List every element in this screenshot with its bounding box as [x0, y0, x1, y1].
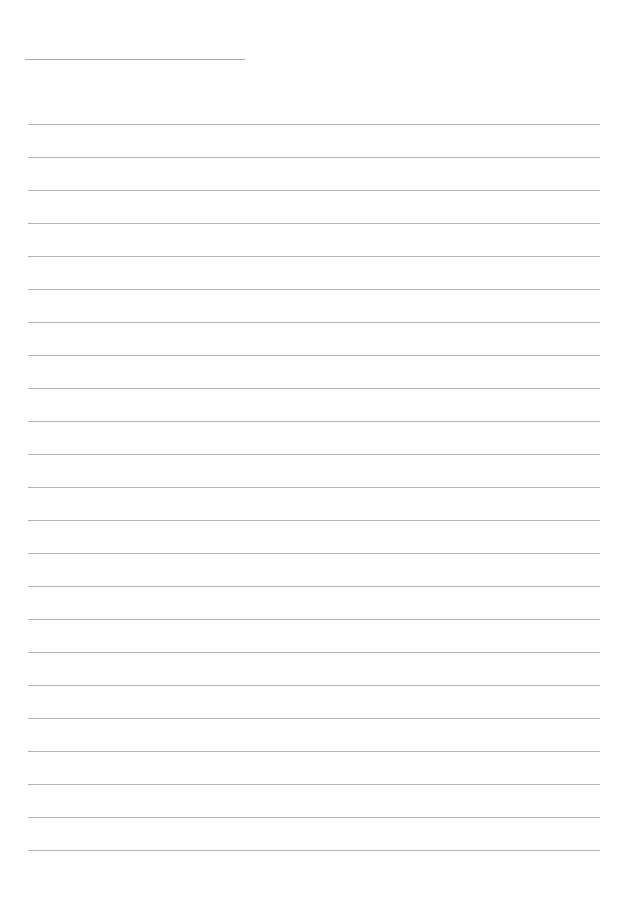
ruled-line: [28, 817, 600, 818]
ruled-line: [28, 520, 600, 521]
ruled-line: [28, 388, 600, 389]
ruled-line: [28, 652, 600, 653]
ruled-line: [28, 355, 600, 356]
ruled-line: [28, 685, 600, 686]
ruled-line: [28, 157, 600, 158]
ruled-lines-container: [0, 0, 624, 907]
ruled-line: [28, 784, 600, 785]
ruled-line: [28, 487, 600, 488]
ruled-line: [28, 322, 600, 323]
ruled-line: [28, 586, 600, 587]
lined-paper-page: [0, 0, 624, 907]
ruled-line: [28, 454, 600, 455]
ruled-line: [28, 619, 600, 620]
ruled-line: [28, 190, 600, 191]
ruled-line: [28, 256, 600, 257]
ruled-line: [28, 289, 600, 290]
ruled-line: [28, 223, 600, 224]
ruled-line: [28, 421, 600, 422]
ruled-line: [28, 553, 600, 554]
ruled-line: [28, 850, 600, 851]
ruled-line: [28, 718, 600, 719]
ruled-line: [28, 751, 600, 752]
ruled-line: [28, 124, 600, 125]
